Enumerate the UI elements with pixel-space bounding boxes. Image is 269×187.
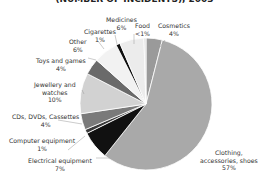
label-text: Computer equipment: [9, 137, 75, 145]
label-text: Food: [135, 22, 150, 30]
label-pct: 4%: [158, 30, 190, 38]
label-pct: 1%: [9, 145, 75, 153]
label-text: CDs, DVDs, Cassettes: [12, 113, 79, 121]
label-text: watches: [34, 89, 76, 97]
label-clothing: Clothing, accessories, shoes 57%: [200, 149, 258, 172]
label-toys: Toys and games 4%: [36, 57, 86, 72]
label-computer: Computer equipment 1%: [9, 137, 75, 152]
label-text: Electrical equipment: [28, 157, 92, 165]
label-text: Other: [69, 38, 87, 46]
label-text: Cigarettes: [84, 28, 116, 36]
label-text: Medicines: [106, 16, 137, 24]
label-cosmetics: Cosmetics 4%: [158, 22, 190, 37]
label-text: Clothing,: [200, 149, 258, 157]
label-text: accessories, shoes: [200, 157, 258, 165]
label-pct: 10%: [34, 96, 76, 104]
pie-slices: [80, 38, 212, 170]
label-text: Toys and games: [36, 57, 86, 65]
label-pct: 4%: [12, 121, 79, 129]
label-pct: 57%: [200, 164, 258, 172]
label-other: Other 6%: [69, 38, 87, 53]
label-text: Jewellery and: [34, 81, 76, 89]
label-jewellery: Jewellery and watches 10%: [34, 81, 76, 104]
label-food: Food <1%: [135, 22, 150, 37]
label-text: Cosmetics: [158, 22, 190, 30]
label-pct: 4%: [36, 65, 86, 73]
label-cigarettes: Cigarettes 1%: [84, 28, 116, 43]
label-pct: 1%: [84, 36, 116, 44]
label-pct: <1%: [135, 30, 150, 38]
label-electrical: Electrical equipment 7%: [28, 157, 92, 172]
label-pct: 7%: [28, 165, 92, 173]
label-pct: 6%: [69, 46, 87, 54]
label-cds: CDs, DVDs, Cassettes 4%: [12, 113, 79, 128]
